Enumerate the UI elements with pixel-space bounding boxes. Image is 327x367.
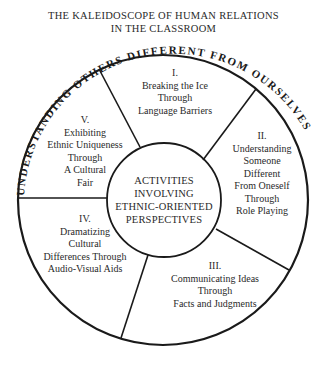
segment-line: Language Barriers — [120, 105, 230, 118]
segment-iii: III. Communicating Ideas Through Facts a… — [155, 260, 275, 310]
segment-line: Through — [155, 285, 275, 298]
segment-line: Fair — [35, 177, 135, 190]
segment-line: Facts and Judgments — [155, 298, 275, 311]
segment-line: Understanding — [222, 143, 302, 156]
segment-ii: II. Understanding Someone Different From… — [222, 130, 302, 218]
segment-line: Through — [222, 193, 302, 206]
segment-line: Breaking the Ice — [120, 80, 230, 93]
center-line-3: ETHNIC-ORIENTED — [104, 200, 224, 213]
segment-numeral: IV. — [30, 213, 140, 226]
segment-iv: IV. Dramatizing Cultural Differences Thr… — [30, 213, 140, 276]
segment-v: V. Exhibiting Ethnic Uniqueness Through … — [35, 114, 135, 189]
segment-line: Through — [120, 92, 230, 105]
segment-line: From Oneself — [222, 180, 302, 193]
segment-numeral: V. — [35, 114, 135, 127]
segment-line: Audio-Visual Aids — [30, 263, 140, 276]
segment-line: Exhibiting — [35, 127, 135, 140]
segment-line: Role Playing — [222, 205, 302, 218]
segment-line: Dramatizing — [30, 226, 140, 239]
segment-line: Through — [35, 152, 135, 165]
segment-line: Cultural — [30, 238, 140, 251]
segment-line: Differences Through — [30, 251, 140, 264]
segment-line: Someone — [222, 155, 302, 168]
segment-line: Communicating Ideas — [155, 273, 275, 286]
segment-numeral: III. — [155, 260, 275, 273]
segment-i: I. Breaking the Ice Through Language Bar… — [120, 67, 230, 117]
segment-numeral: II. — [222, 130, 302, 143]
segment-line: Different — [222, 168, 302, 181]
segment-line: A Cultural — [35, 164, 135, 177]
segment-numeral: I. — [120, 67, 230, 80]
segment-line: Ethnic Uniqueness — [35, 139, 135, 152]
